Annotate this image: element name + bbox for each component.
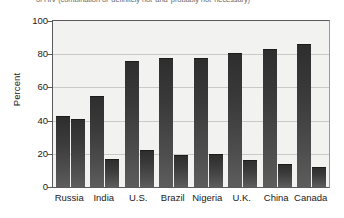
y-axis-tick-mark	[47, 21, 52, 22]
bar-group	[159, 21, 190, 187]
x-axis-tick-label: Canada	[294, 192, 329, 203]
bar-group	[125, 21, 156, 187]
y-axis-tick-mark	[47, 54, 52, 55]
bar-group	[263, 21, 294, 187]
bar	[228, 53, 242, 187]
caption-text: of HIV (combination of 'definitely not' …	[36, 0, 326, 4]
y-axis-tick-label: 100	[8, 15, 48, 26]
bar	[297, 44, 311, 187]
x-axis-tick-label: Brazil	[156, 192, 191, 203]
bar	[312, 167, 326, 187]
bars-layer	[53, 21, 329, 187]
y-axis-tick-mark	[47, 121, 52, 122]
bar	[263, 49, 277, 187]
x-axis-tick-label: Nigeria	[190, 192, 225, 203]
bar-group	[194, 21, 225, 187]
x-axis-tick-label: China	[259, 192, 294, 203]
bar	[125, 61, 139, 187]
bar	[209, 154, 223, 187]
bar	[159, 58, 173, 187]
bar	[56, 116, 70, 187]
y-axis-tick-label: 20	[8, 148, 48, 159]
y-axis-tick-mark	[47, 87, 52, 88]
y-axis-tick-mark	[47, 187, 52, 188]
bar-group	[90, 21, 121, 187]
bar	[194, 58, 208, 187]
bar	[71, 119, 85, 187]
bar-chart-figure: of HIV (combination of 'definitely not' …	[0, 0, 344, 218]
bar	[140, 150, 154, 187]
bar-group	[297, 21, 328, 187]
bar	[174, 155, 188, 187]
y-axis-tick-label: 80	[8, 48, 48, 59]
x-axis-tick-label: Russia	[52, 192, 87, 203]
bar-group	[228, 21, 259, 187]
bar	[278, 164, 292, 187]
clipped-caption: of HIV (combination of 'definitely not' …	[0, 0, 344, 8]
bar	[243, 160, 257, 187]
y-axis-tick-label: 0	[8, 181, 48, 192]
x-axis-tick-label: U.S.	[121, 192, 156, 203]
bar-group	[56, 21, 87, 187]
x-axis-tick-label: India	[87, 192, 122, 203]
y-axis-tick-label: 60	[8, 81, 48, 92]
x-axis-labels: RussiaIndiaU.S.BrazilNigeriaU.K.ChinaCan…	[52, 192, 330, 210]
y-axis-tick-mark	[47, 154, 52, 155]
bar	[105, 159, 119, 187]
y-axis-tick-label: 40	[8, 115, 48, 126]
bar	[90, 96, 104, 187]
x-axis-tick-label: U.K.	[225, 192, 260, 203]
